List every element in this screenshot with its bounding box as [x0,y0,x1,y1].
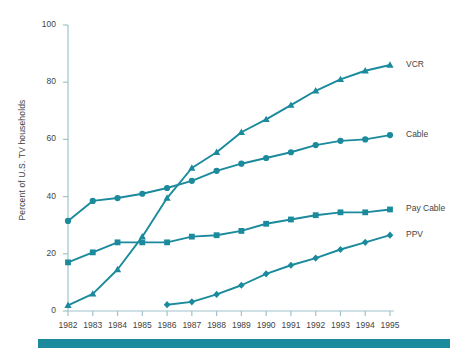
data-point-marker [114,195,120,201]
series-line [167,235,390,304]
data-point-marker [312,254,319,261]
data-point-marker [387,207,393,213]
data-point-marker [189,298,196,305]
y-tick-label: 40 [30,191,56,201]
data-point-marker [387,132,393,138]
data-point-marker [139,239,145,245]
legend-label-pay-cable: Pay Cable [406,203,445,213]
data-point-marker [164,185,170,191]
data-point-marker [214,168,220,174]
x-tick-label: 1995 [375,320,405,330]
data-point-marker [288,217,294,223]
legend-label-vcr: VCR [406,59,424,69]
data-point-marker [90,198,96,204]
legend-label-cable: Cable [406,129,428,139]
data-point-marker [386,61,393,67]
data-point-marker [65,218,71,224]
data-point-marker [362,209,368,215]
data-point-marker [164,239,170,245]
series-vcr [64,61,393,308]
data-point-marker [337,246,344,253]
data-point-marker [115,239,121,245]
data-point-marker [189,178,195,184]
y-tick-label: 80 [30,76,56,86]
series-line [68,209,390,262]
data-point-marker [288,262,295,269]
y-tick-label: 20 [30,248,56,258]
data-point-marker [362,136,368,142]
data-point-marker [90,249,96,255]
series-cable [65,132,393,224]
series-pay-cable [65,207,393,266]
data-point-marker [139,191,145,197]
data-point-marker [164,301,171,308]
y-tick-label: 100 [30,19,56,29]
data-point-marker [362,239,369,246]
chart-container: Percent of U.S. TV households 1008060402… [0,0,474,356]
footer-accent-bar [38,339,450,348]
series-ppv [164,232,394,309]
data-point-marker [189,234,195,240]
plot-area [0,0,474,356]
data-point-marker [263,221,269,227]
y-tick-label: 0 [30,305,56,315]
data-point-marker [288,149,294,155]
series-line [68,135,390,221]
data-point-marker [214,232,220,238]
data-point-marker [313,142,319,148]
data-point-marker [387,232,394,239]
data-point-marker [263,155,269,161]
data-point-marker [238,228,244,234]
y-tick-label: 60 [30,133,56,143]
data-point-marker [338,209,344,215]
data-point-marker [263,270,270,277]
data-point-marker [337,138,343,144]
data-point-marker [238,161,244,167]
data-point-marker [238,282,245,289]
data-point-marker [313,212,319,218]
data-point-marker [65,259,71,265]
legend-label-ppv: PPV [406,229,423,239]
data-point-marker [213,291,220,298]
